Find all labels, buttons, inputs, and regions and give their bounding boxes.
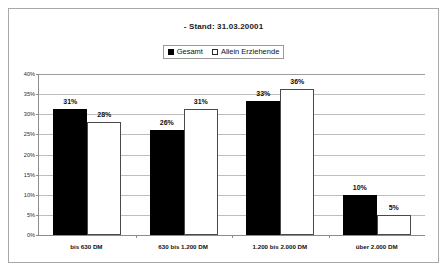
legend-label-gesamt: Gesamt [177, 47, 203, 56]
hollow-square-icon [212, 49, 218, 55]
bar-group-inner: 26%31% [136, 74, 233, 235]
legend-item-gesamt[interactable]: Gesamt [168, 47, 203, 56]
y-axis-tick-label: 35% [24, 91, 35, 97]
bar-value-label: 10% [353, 184, 367, 191]
y-axis-tick-label: 10% [24, 192, 35, 198]
bar-allein-erziehende[interactable]: 28% [87, 122, 121, 235]
bar-value-label: 28% [97, 111, 111, 118]
x-axis-category-label: über 2.000 DM [328, 243, 425, 250]
x-axis-category-label: bis 630 DM [38, 243, 135, 250]
x-axis-tick [136, 235, 137, 238]
legend-item-allein-erziehende[interactable]: Allein Erziehende [212, 47, 279, 56]
bar-gesamt[interactable]: 33% [246, 101, 280, 235]
bar-group: 26%31% [136, 74, 233, 235]
y-axis-tick-label: 20% [24, 152, 35, 158]
y-axis-tick-label: 0% [27, 232, 35, 238]
bar-group-inner: 10%5% [329, 74, 426, 235]
bar-gesamt[interactable]: 10% [343, 195, 377, 236]
chart-screenshot: - Stand: 31.03.20001 Gesamt Allein Erzie… [0, 0, 447, 272]
legend-box[interactable]: Gesamt Allein Erziehende [163, 45, 285, 59]
bar-groups: 31%28%26%31%33%36%10%5% [39, 74, 425, 235]
bar-allein-erziehende[interactable]: 31% [184, 109, 218, 235]
chart-title: - Stand: 31.03.20001 [0, 22, 447, 31]
x-axis-category-label: 630 bis 1.200 DM [135, 243, 232, 250]
bar-group-inner: 33%36% [232, 74, 329, 235]
y-axis-tick-label: 5% [27, 212, 35, 218]
bar-value-label: 33% [256, 90, 270, 97]
bar-value-label: 5% [389, 204, 399, 211]
bar-group: 10%5% [329, 74, 426, 235]
bar-group: 31%28% [39, 74, 136, 235]
x-axis-labels: bis 630 DM630 bis 1.200 DM1.200 bis 2.00… [38, 243, 425, 250]
bar-value-label: 31% [194, 98, 208, 105]
bar-allein-erziehende[interactable]: 36% [280, 89, 314, 235]
x-axis-tick [232, 235, 233, 238]
y-axis-tick-label: 25% [24, 131, 35, 137]
bar-value-label: 31% [63, 98, 77, 105]
bar-value-label: 36% [290, 78, 304, 85]
y-axis-tick-label: 30% [24, 111, 35, 117]
bar-group: 33%36% [232, 74, 329, 235]
plot-area: 0%5%10%15%20%25%30%35%40% 31%28%26%31%33… [38, 74, 425, 236]
x-axis-category-label: 1.200 bis 2.000 DM [232, 243, 329, 250]
bar-allein-erziehende[interactable]: 5% [377, 215, 411, 235]
y-axis-tick-label: 40% [24, 71, 35, 77]
bar-value-label: 26% [160, 119, 174, 126]
filled-square-icon [168, 49, 174, 55]
y-axis-tick [36, 235, 39, 236]
bar-gesamt[interactable]: 26% [150, 130, 184, 235]
legend-label-allein-erziehende: Allein Erziehende [221, 47, 279, 56]
bar-gesamt[interactable]: 31% [53, 109, 87, 235]
y-axis-tick-label: 15% [24, 172, 35, 178]
bar-group-inner: 31%28% [39, 74, 136, 235]
x-axis-tick [329, 235, 330, 238]
